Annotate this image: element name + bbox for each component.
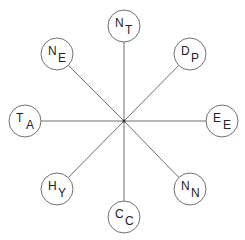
- node-dp: DP: [174, 38, 206, 70]
- node-label-sub: E: [223, 118, 231, 132]
- node-label-main: N: [48, 44, 57, 58]
- edge-nn: [124, 121, 179, 178]
- node-label-sub: Y: [58, 186, 66, 200]
- node-ee: EE: [206, 105, 238, 137]
- node-nt: NT: [108, 10, 140, 42]
- star-diagram: NTDPEENNCCHYTANE: [0, 0, 245, 240]
- node-ta: TA: [9, 105, 41, 137]
- node-circle: [108, 10, 140, 42]
- node-circle: [9, 105, 41, 137]
- edge-ne: [68, 65, 124, 121]
- node-label-sub: E: [58, 51, 66, 65]
- node-label-sub: C: [125, 214, 134, 228]
- node-label-main: E: [213, 111, 221, 125]
- node-circle: [108, 201, 140, 233]
- edge-dp: [124, 65, 179, 121]
- node-label-main: H: [48, 179, 57, 193]
- node-ne: NE: [41, 38, 73, 70]
- center-hub: [123, 120, 126, 123]
- node-cc: CC: [108, 201, 140, 233]
- node-label-main: D: [181, 44, 190, 58]
- node-circle: [41, 173, 73, 205]
- node-circle: [206, 105, 238, 137]
- node-label-main: T: [16, 111, 24, 125]
- node-circle: [174, 38, 206, 70]
- node-label-main: N: [181, 179, 190, 193]
- node-label-main: N: [115, 16, 124, 30]
- node-circle: [174, 173, 206, 205]
- node-label-sub: N: [191, 186, 200, 200]
- node-label-main: C: [115, 207, 124, 221]
- node-hy: HY: [41, 173, 73, 205]
- node-label-sub: A: [26, 118, 34, 132]
- node-circle: [41, 38, 73, 70]
- edge-hy: [68, 121, 124, 178]
- node-label-sub: P: [191, 51, 199, 65]
- node-label-sub: T: [125, 23, 133, 37]
- node-nn: NN: [174, 173, 206, 205]
